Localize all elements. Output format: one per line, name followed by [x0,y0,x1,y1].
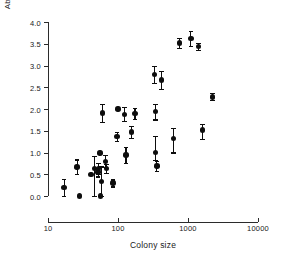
x-tick-label: 1000 [179,224,197,233]
figure-scatter-colony-size: 0.00.51.01.52.02.53.03.54.0 101001000100… [0,0,289,271]
error-cap-upper [189,31,194,32]
marker-dot [132,111,137,116]
y-tick-label: 3.0 [30,62,41,71]
x-tick-label: 10000 [247,224,269,233]
marker-dot [177,40,182,45]
marker-dot [99,179,104,184]
error-cap-upper [115,132,120,133]
y-axis-title: Abutting neighbouring nests / nest [2,0,14,34]
error-cap-lower [62,196,67,197]
marker-dot [122,112,127,117]
error-cap-lower [111,186,116,187]
error-cap-lower [92,196,97,197]
error-cap-lower [189,46,194,47]
error-cap-lower [177,48,182,49]
error-cap-upper [177,38,182,39]
y-tick-label: 2.0 [30,105,41,114]
marker-dot [153,150,158,155]
y-tick-label: 3.5 [30,40,41,49]
x-tick [48,218,49,222]
marker-dot [196,44,201,49]
error-cap-upper [133,108,138,109]
error-cap-lower [210,100,215,101]
x-tick-label: 10 [44,224,53,233]
marker-dot [98,193,103,198]
y-tick: 0.0 [44,196,48,197]
error-cap-lower [115,141,120,142]
marker-dot [129,129,134,134]
marker-dot [110,180,115,185]
error-cap-upper [100,104,105,105]
marker-dot [152,72,157,77]
x-axis-line [48,222,258,223]
error-cap-upper [124,147,129,148]
error-cap-upper [152,66,157,67]
error-cap-lower [171,152,176,153]
error-cap-lower [100,122,105,123]
marker-dot [103,159,108,164]
error-cap-lower [104,173,109,174]
error-cap-lower [133,119,138,120]
error-cap-lower [196,50,201,51]
error-cap-lower [200,139,205,140]
x-tick [188,218,189,222]
error-cap-upper [96,163,101,164]
x-axis-title: Colony size [48,240,258,250]
error-cap-lower [96,176,101,177]
error-cap-lower [124,163,129,164]
error-cap-upper [122,107,127,108]
error-cap-upper [129,126,134,127]
marker-dot [100,110,105,115]
marker-dot [114,134,119,139]
x-tick [118,218,119,222]
y-tick-label: 1.5 [30,127,41,136]
error-cap-upper [159,71,164,72]
marker-dot [115,106,120,111]
marker-dot [188,36,193,41]
y-tick-label: 0.0 [30,192,41,201]
plot-area [48,22,258,196]
y-tick-label: 4.0 [30,18,41,27]
error-cap-upper [92,156,97,157]
marker-dot [171,136,176,141]
error-cap-upper [155,161,160,162]
marker-dot [153,109,158,114]
error-cap-upper [200,124,205,125]
error-cap-lower [122,121,127,122]
error-cap-upper [75,159,80,160]
marker-dot [74,164,79,169]
error-cap-upper [103,155,108,156]
error-cap-lower [129,138,134,139]
error-cap-lower [75,174,80,175]
x-tick [258,218,259,222]
x-tick-label: 100 [111,224,124,233]
y-tick-label: 1.0 [30,149,41,158]
marker-dot [88,172,93,177]
marker-dot [159,77,164,82]
marker-dot [154,163,159,168]
marker-dot [61,185,66,190]
error-cap-upper [153,136,158,137]
error-cap-lower [152,83,157,84]
error-cap-lower [153,119,158,120]
error-cap-lower [155,171,160,172]
error-cap-upper [153,104,158,105]
marker-dot [77,193,82,198]
marker-dot [123,152,128,157]
y-tick-label: 0.5 [30,170,41,179]
marker-dot [210,94,215,99]
error-cap-upper [62,179,67,180]
error-cap-upper [171,128,176,129]
marker-dot [200,127,205,132]
marker-dot [97,150,102,155]
error-cap-lower [159,89,164,90]
y-tick-label: 2.5 [30,83,41,92]
marker-dot [104,166,109,171]
